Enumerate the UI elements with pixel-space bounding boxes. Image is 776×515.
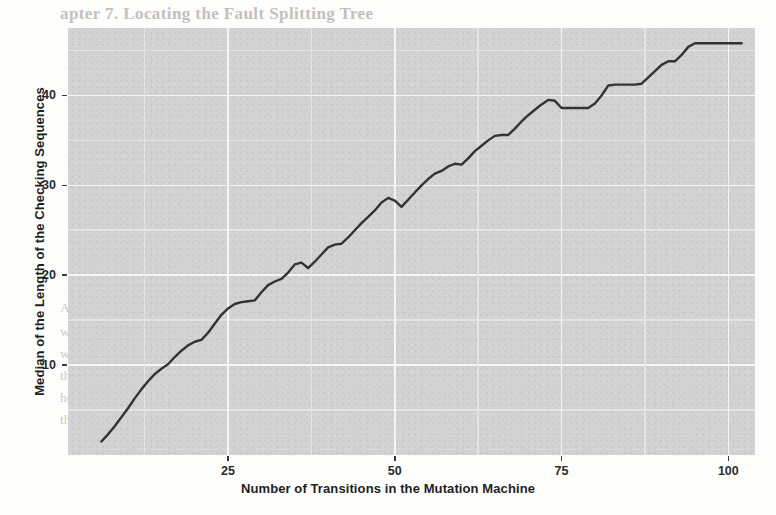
x-axis-title: Number of Transitions in the Mutation Ma… <box>0 481 776 496</box>
x-axis-tick-label: 50 <box>375 464 415 478</box>
x-axis-tick-mark <box>728 456 730 461</box>
y-axis-title: Median of the Length of the Checking Seq… <box>32 28 47 455</box>
y-axis-tick-mark <box>62 364 67 366</box>
chart-figure: 10203040255075100 Number of Transitions … <box>0 0 776 515</box>
y-axis-tick-mark <box>62 185 67 187</box>
plot-panel <box>68 28 755 455</box>
x-axis-tick-label: 75 <box>542 464 582 478</box>
x-axis-tick-mark <box>227 456 229 461</box>
y-axis-tick-mark <box>62 95 67 97</box>
x-axis-tick-mark <box>394 456 396 461</box>
y-axis-tick-mark <box>62 274 67 276</box>
x-axis-tick-mark <box>561 456 563 461</box>
x-axis-tick-label: 25 <box>208 464 248 478</box>
x-axis-tick-label: 100 <box>708 464 748 478</box>
data-line-series <box>68 28 755 455</box>
